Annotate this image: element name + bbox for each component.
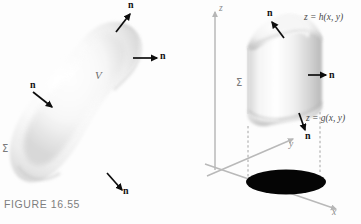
normal-label-left-bottom: n [123, 186, 129, 196]
figure-caption: FIGURE 16.55 [4, 198, 80, 210]
volume-label: V [95, 70, 102, 81]
axis-label-z: z [219, 4, 223, 14]
figure-artwork [0, 0, 361, 224]
top-surface-equation-label: z = h(x, y) [304, 13, 343, 23]
projection-shadow [246, 170, 326, 195]
bottom-surface-equation-label: z = g(x, y) [306, 114, 345, 124]
axis-label-y: y [289, 140, 293, 150]
normal-label-right-side: n [329, 70, 335, 80]
normal-arrow-bottom [107, 173, 122, 190]
normal-label-left-upper-right: n [160, 51, 166, 61]
normal-label-left-left: n [30, 80, 36, 90]
normal-label-left-top: n [128, 0, 134, 10]
surface-label-right: Σ [236, 78, 242, 88]
right-solid-group [248, 14, 322, 126]
normal-label-right-top: n [267, 8, 273, 18]
figure-container: n n n n V Σ z y x n n n Σ z = h(x, y) z … [0, 0, 361, 224]
axis-label-x: x [332, 208, 336, 218]
normal-label-right-bottom: n [305, 131, 311, 141]
surface-label-left: Σ [2, 144, 8, 154]
left-solid-group [10, 22, 141, 183]
